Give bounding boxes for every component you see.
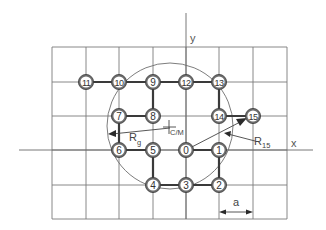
node-5: 5 <box>145 142 160 157</box>
node-label: 5 <box>150 145 156 156</box>
com-label: C/M <box>170 128 184 137</box>
node-label: 3 <box>183 180 189 191</box>
rg-arrowhead-icon <box>108 130 116 137</box>
node-1: 1 <box>211 142 226 157</box>
spacing-label: a <box>233 196 240 208</box>
polymer-lattice-diagram: x y C/M 0123456789101112131415 R g R 15 <box>0 0 326 230</box>
node-6: 6 <box>111 142 126 157</box>
node-label: 0 <box>183 145 189 156</box>
node-label: 1 <box>216 145 222 156</box>
node-9: 9 <box>145 74 160 89</box>
node-4: 4 <box>145 177 160 192</box>
node-label: 6 <box>116 145 122 156</box>
node-label: 7 <box>116 111 122 122</box>
rg-vector <box>108 128 170 137</box>
node-2: 2 <box>211 177 226 192</box>
rg-label-main: R <box>129 131 137 143</box>
node-11: 11 <box>78 74 93 89</box>
node-label: 4 <box>150 180 156 191</box>
node-label: 12 <box>182 78 191 88</box>
node-13: 13 <box>211 74 226 89</box>
node-8: 8 <box>145 108 160 123</box>
rg-label-sub: g <box>137 138 141 147</box>
node-label: 14 <box>215 112 224 122</box>
node-label: 15 <box>249 112 258 122</box>
spacing-right-arrowhead-icon <box>246 210 253 215</box>
node-label: 11 <box>82 78 91 88</box>
r15-label: R 15 <box>254 135 270 150</box>
r15-leader <box>224 131 255 141</box>
node-3: 3 <box>178 177 193 192</box>
node-label: 9 <box>150 77 156 88</box>
node-10: 10 <box>111 74 126 89</box>
rg-label: R g <box>129 131 141 147</box>
node-14: 14 <box>211 108 226 123</box>
node-label: 8 <box>150 111 156 122</box>
r15-label-sub: 15 <box>262 141 270 150</box>
node-label: 10 <box>115 78 124 88</box>
node-12: 12 <box>178 74 193 89</box>
node-15: 15 <box>245 108 260 123</box>
y-axis-label: y <box>190 32 196 44</box>
rg-arrow-line <box>112 128 170 134</box>
r15-leader-arrowhead-icon <box>224 131 231 137</box>
node-label: 13 <box>215 78 224 88</box>
r15-arrowhead-icon <box>236 118 247 126</box>
r15-label-main: R <box>254 135 262 147</box>
node-7: 7 <box>111 108 126 123</box>
node-label: 2 <box>216 180 222 191</box>
x-axis-label: x <box>291 137 297 149</box>
node-0: 0 <box>178 142 193 157</box>
spacing-left-arrowhead-icon <box>219 210 226 215</box>
lattice-spacing-dimension: a <box>219 196 253 215</box>
